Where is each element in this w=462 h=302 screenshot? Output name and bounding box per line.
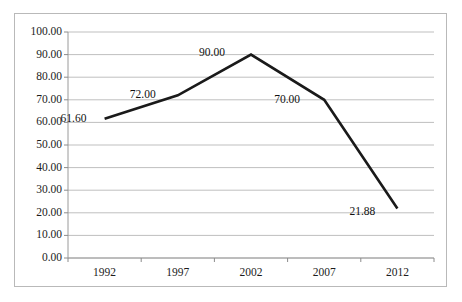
- data-point-label: 72.00: [130, 88, 156, 100]
- y-axis-tick-label: 70.00: [10, 93, 62, 105]
- data-point-label: 70.00: [274, 93, 300, 105]
- data-point-label: 61.60: [61, 112, 87, 124]
- tick-marks-group: [64, 32, 434, 262]
- y-axis-tick-label: 0.00: [10, 251, 62, 263]
- y-axis-tick-label: 60.00: [10, 115, 62, 127]
- y-axis-tick-label: 50.00: [10, 138, 62, 150]
- y-axis-tick-label: 80.00: [10, 70, 62, 82]
- y-axis-tick-label: 10.00: [10, 228, 62, 240]
- line-chart-plot: [0, 0, 462, 302]
- x-axis-tick-label: 1992: [75, 266, 135, 278]
- x-axis-tick-label: 2007: [294, 266, 354, 278]
- x-axis-tick-label: 2002: [221, 266, 281, 278]
- gridlines-group: [68, 32, 434, 258]
- y-axis-tick-label: 30.00: [10, 183, 62, 195]
- y-axis-tick-label: 90.00: [10, 48, 62, 60]
- x-axis-tick-label: 2012: [367, 266, 427, 278]
- x-axis-tick-label: 1997: [148, 266, 208, 278]
- data-point-label: 21.88: [349, 205, 375, 217]
- y-axis-tick-label: 100.00: [10, 25, 62, 37]
- data-point-label: 90.00: [199, 46, 225, 58]
- y-axis-tick-label: 40.00: [10, 161, 62, 173]
- y-axis-tick-label: 20.00: [10, 206, 62, 218]
